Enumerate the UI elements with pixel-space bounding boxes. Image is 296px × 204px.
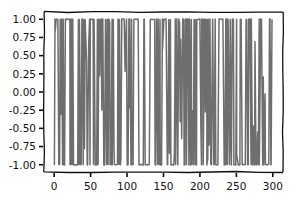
x-tick-label: 100 bbox=[117, 180, 137, 192]
x-tick-label: 0 bbox=[51, 180, 58, 192]
y-tick-label: 0.50 bbox=[13, 49, 36, 61]
data-series-signal bbox=[54, 19, 272, 165]
y-tick-label: 1.00 bbox=[13, 13, 36, 25]
x-tick-label: 300 bbox=[263, 180, 283, 192]
x-tick-label: 250 bbox=[226, 180, 246, 192]
x-axis: 050100150200250300 bbox=[51, 173, 283, 192]
x-tick-label: 50 bbox=[84, 180, 97, 192]
signal-line bbox=[54, 19, 272, 165]
y-axis: 1.000.750.500.250.00-0.25-0.50-0.75-1.00 bbox=[9, 13, 43, 170]
x-tick-label: 200 bbox=[190, 180, 210, 192]
y-tick-label: 0.75 bbox=[13, 31, 36, 43]
y-tick-label: 0.00 bbox=[13, 86, 36, 98]
y-tick-label: 0.25 bbox=[13, 68, 36, 80]
y-tick-label: -0.50 bbox=[9, 122, 36, 134]
y-tick-label: -0.75 bbox=[9, 140, 36, 152]
line-chart: 1.000.750.500.250.00-0.25-0.50-0.75-1.00… bbox=[0, 0, 296, 204]
x-tick-label: 150 bbox=[153, 180, 173, 192]
y-tick-label: -1.00 bbox=[9, 159, 36, 171]
y-tick-label: -0.25 bbox=[9, 104, 36, 116]
